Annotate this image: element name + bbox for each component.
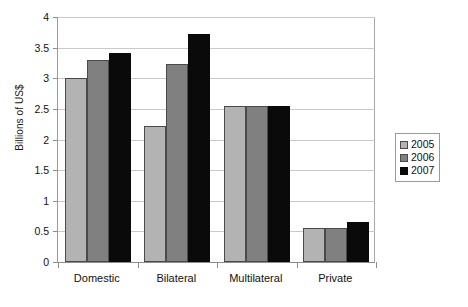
- x-axis-tick: [58, 262, 59, 268]
- bar-private-2005: [303, 228, 325, 262]
- bar-private-2007: [347, 222, 369, 262]
- y-axis-tick-label: 1: [43, 195, 49, 207]
- legend-label-2006: 2006: [411, 152, 434, 163]
- y-axis-tick-label: 0: [43, 256, 49, 268]
- x-axis-label-private: Private: [296, 272, 376, 284]
- bar-multilateral-2006: [246, 106, 268, 262]
- plot-area: 00.511.522.533.54: [57, 17, 375, 262]
- y-axis-tick-label: 4: [43, 11, 49, 23]
- x-axis-tick: [217, 262, 218, 268]
- x-axis-label-bilateral: Bilateral: [137, 272, 217, 284]
- legend-swatch-icon-2007: [400, 167, 408, 175]
- legend-label-2005: 2005: [411, 139, 434, 150]
- y-axis-tick-label: 3.5: [34, 42, 49, 54]
- bar-domestic-2006: [87, 60, 109, 262]
- y-axis-tick-label: 2: [43, 134, 49, 146]
- y-axis-tick-label: 0.5: [34, 225, 49, 237]
- y-axis-title: Billions of US$: [14, 63, 25, 173]
- legend: 2005 2006 2007: [395, 133, 440, 182]
- x-axis-tick: [297, 262, 298, 268]
- x-axis-label-domestic: Domestic: [57, 272, 137, 284]
- legend-item-2005: 2005: [400, 138, 434, 151]
- bar-bilateral-2005: [144, 126, 166, 262]
- bar-bilateral-2007: [188, 34, 210, 262]
- y-axis-tick-label: 2.5: [34, 103, 49, 115]
- bar-multilateral-2005: [224, 106, 246, 262]
- legend-item-2006: 2006: [400, 151, 434, 164]
- legend-swatch-icon-2005: [400, 141, 408, 149]
- bar-chart: Billions of US$ 00.511.522.533.54 Domest…: [0, 0, 468, 307]
- legend-label-2007: 2007: [411, 165, 434, 176]
- bar-group-bilateral: [138, 17, 218, 262]
- y-axis-tick-label: 3: [43, 72, 49, 84]
- bar-multilateral-2007: [268, 106, 290, 262]
- x-axis-tick: [376, 262, 377, 268]
- y-axis-tick-label: 1.5: [34, 164, 49, 176]
- x-axis-tick: [138, 262, 139, 268]
- bar-bilateral-2006: [166, 64, 188, 262]
- bar-domestic-2007: [109, 53, 131, 262]
- bar-group-domestic: [58, 17, 138, 262]
- bar-private-2006: [325, 228, 347, 262]
- legend-item-2007: 2007: [400, 164, 434, 177]
- bar-group-private: [297, 17, 377, 262]
- x-axis-label-multilateral: Multilateral: [216, 272, 296, 284]
- legend-swatch-icon-2006: [400, 154, 408, 162]
- bar-domestic-2005: [65, 78, 87, 262]
- bar-group-multilateral: [217, 17, 297, 262]
